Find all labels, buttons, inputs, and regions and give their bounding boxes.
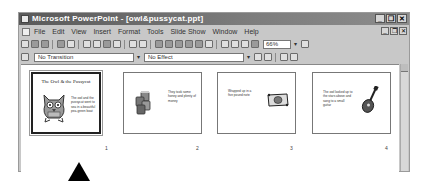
menu-format[interactable]: Format — [118, 26, 140, 37]
open-icon[interactable] — [31, 40, 39, 48]
slide-sorter-toolbar: No Transition ▾ No Effect ▾ — [19, 51, 409, 63]
undo-icon[interactable] — [129, 40, 137, 48]
summary-slide-icon[interactable] — [280, 53, 288, 61]
transition-dropdown-arrow[interactable]: ▾ — [135, 53, 142, 62]
rehearse-timings-icon[interactable] — [264, 53, 272, 61]
menu-window[interactable]: Window — [212, 26, 237, 37]
slide-number-2: 2 — [196, 145, 199, 151]
transition-select[interactable]: No Transition — [34, 53, 134, 62]
standard-toolbar: 66% ▾ — [19, 38, 409, 50]
menu-bar: File Edit View Insert Format Tools Slide… — [19, 26, 409, 37]
toolbar-separator — [216, 40, 217, 49]
toolbar-separator — [52, 40, 53, 49]
window-title: Microsoft PowerPoint - [owl&pussycat.ppt… — [32, 13, 203, 25]
hide-slide-icon[interactable] — [254, 53, 262, 61]
copy-icon[interactable] — [93, 40, 101, 48]
toolbar-separator — [124, 40, 125, 49]
app-icon[interactable] — [21, 15, 29, 23]
document-icon[interactable] — [22, 28, 30, 36]
menu-tools[interactable]: Tools — [147, 26, 163, 37]
slide-title: The Owl & the Pussycat — [33, 79, 99, 84]
slide-layout-icon[interactable] — [231, 40, 239, 48]
menu-insert[interactable]: Insert — [93, 26, 111, 37]
restore-button[interactable]: ❐ — [386, 14, 396, 23]
menu-view[interactable]: View — [71, 26, 86, 37]
annotation-arrow-icon — [68, 162, 90, 181]
insert-chart-icon[interactable] — [195, 40, 203, 48]
effect-select[interactable]: No Effect — [144, 53, 244, 62]
close-button[interactable]: ✕ — [397, 14, 407, 23]
office-assistant-icon[interactable] — [301, 40, 309, 48]
web-toolbar-icon[interactable] — [165, 40, 173, 48]
slide-body-text: The owl looked up to the stars above and… — [323, 90, 353, 108]
minimize-button[interactable]: _ — [375, 14, 385, 23]
slide-body-text: They took some honey and plenty of money — [168, 90, 198, 103]
slide-body-text: The owl and the pussycat went to sea in … — [71, 96, 99, 114]
cut-icon[interactable] — [83, 40, 91, 48]
redo-icon[interactable] — [139, 40, 147, 48]
effect-dropdown-arrow[interactable]: ▾ — [245, 53, 252, 62]
paste-icon[interactable] — [103, 40, 111, 48]
format-painter-icon[interactable] — [113, 40, 121, 48]
slide-body-text: Wrapped up in a five pound note — [228, 89, 254, 98]
apply-design-icon[interactable] — [241, 40, 249, 48]
hyperlink-icon[interactable] — [155, 40, 163, 48]
doc-restore-button[interactable]: ❐ — [390, 27, 398, 35]
slide-thumbnail-2[interactable]: They took some honey and plenty of money — [123, 72, 202, 134]
slide-thumbnail-4[interactable]: The owl looked up to the stars above and… — [312, 72, 391, 134]
save-icon[interactable] — [41, 40, 49, 48]
banknote-icon — [267, 93, 289, 111]
print-icon[interactable] — [57, 40, 65, 48]
owl-cartoon-icon — [40, 91, 68, 127]
toolbar-separator — [150, 40, 151, 49]
show-formatting-icon[interactable] — [290, 53, 298, 61]
new-icon[interactable] — [21, 40, 29, 48]
menu-slide-show[interactable]: Slide Show — [170, 26, 205, 37]
doc-minimize-button[interactable]: _ — [381, 27, 389, 35]
menu-file[interactable]: File — [34, 26, 45, 37]
insert-excel-icon[interactable] — [185, 40, 193, 48]
insert-table-icon[interactable] — [175, 40, 183, 48]
slide-number-1: 1 — [105, 145, 108, 151]
guitar-icon — [361, 86, 379, 118]
slide-transition-icon[interactable] — [21, 53, 29, 61]
insert-clipart-icon[interactable] — [205, 40, 213, 48]
spelling-icon[interactable] — [67, 40, 75, 48]
title-bar: Microsoft PowerPoint - [owl&pussycat.ppt… — [19, 13, 409, 25]
slide-sorter-pane: The Owl & the Pussycat The owl and the p… — [21, 64, 399, 172]
zoom-input[interactable]: 66% — [263, 40, 291, 49]
toolbar-separator — [78, 40, 79, 49]
grayscale-icon[interactable] — [251, 40, 259, 48]
scrollbar-thumb[interactable] — [401, 64, 408, 72]
toolbar-separator — [275, 53, 276, 62]
slide-number-4: 4 — [385, 145, 388, 151]
slide-thumbnail-1[interactable]: The Owl & the Pussycat The owl and the p… — [31, 72, 101, 134]
powerpoint-window: Microsoft PowerPoint - [owl&pussycat.ppt… — [18, 12, 410, 172]
honey-jars-icon — [133, 91, 153, 119]
menu-help[interactable]: Help — [244, 26, 258, 37]
new-slide-icon[interactable] — [221, 40, 229, 48]
vertical-scrollbar[interactable] — [400, 64, 408, 171]
slide-number-3: 3 — [290, 145, 293, 151]
slide-thumbnail-3[interactable]: Wrapped up in a five pound note — [217, 72, 296, 134]
zoom-dropdown-arrow[interactable]: ▾ — [292, 40, 299, 49]
menu-edit[interactable]: Edit — [52, 26, 64, 37]
doc-close-button[interactable]: ✕ — [399, 27, 407, 35]
